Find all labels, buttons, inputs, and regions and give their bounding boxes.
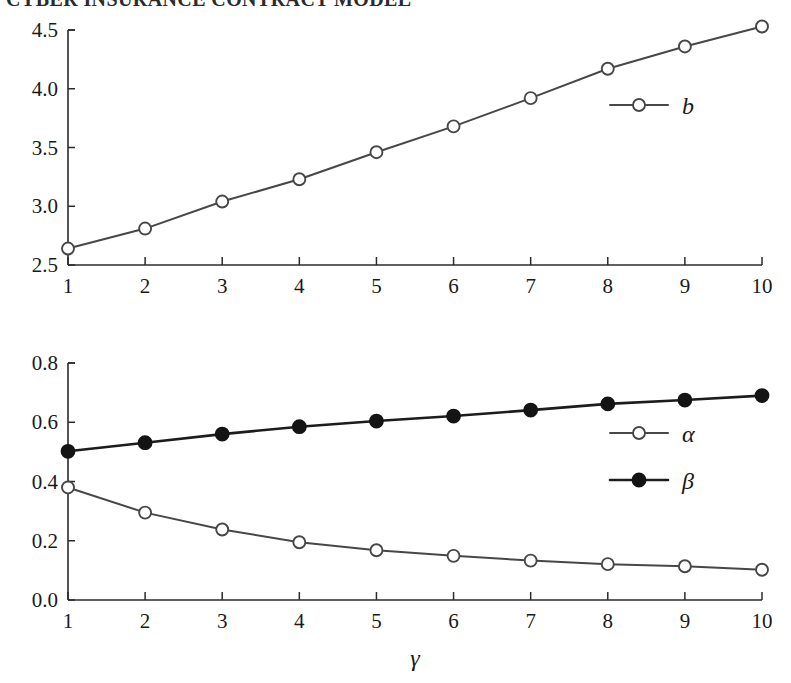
legend-marker-b xyxy=(633,99,645,111)
x-tick-label: 8 xyxy=(603,609,614,633)
y-tick-label: 0.4 xyxy=(32,470,59,494)
data-point-b xyxy=(139,223,151,235)
series-line-β xyxy=(68,396,762,452)
y-tick-label: 2.5 xyxy=(32,253,58,277)
x-tick-label: 1 xyxy=(63,609,74,633)
data-point-b xyxy=(448,120,460,132)
data-point-β xyxy=(755,389,768,402)
x-axis-label: γ xyxy=(410,310,420,320)
data-point-β xyxy=(447,409,460,422)
y-tick-label: 3.0 xyxy=(32,194,58,218)
data-point-β xyxy=(216,428,229,441)
data-point-β xyxy=(293,420,306,433)
data-point-α xyxy=(139,507,151,519)
data-point-β xyxy=(524,404,537,417)
data-point-α xyxy=(216,523,228,535)
data-point-β xyxy=(61,445,74,458)
legend-label-β: β xyxy=(681,468,694,494)
y-tick-label: 3.5 xyxy=(32,136,58,160)
line-chart-b: 2.53.03.54.04.512345678910γb xyxy=(0,10,791,320)
x-tick-label: 7 xyxy=(525,609,536,633)
data-point-α xyxy=(525,555,537,567)
data-point-α xyxy=(756,564,768,576)
x-tick-label: 9 xyxy=(680,274,691,298)
data-point-b xyxy=(679,40,691,52)
data-point-b xyxy=(62,243,74,255)
x-tick-label: 9 xyxy=(680,609,691,633)
data-point-α xyxy=(602,558,614,570)
x-tick-label: 4 xyxy=(294,609,305,633)
data-point-β xyxy=(678,393,691,406)
x-tick-label: 3 xyxy=(217,609,228,633)
x-tick-label: 10 xyxy=(752,609,773,633)
chart-panel-bottom: 0.00.20.40.60.812345678910γαβ xyxy=(0,338,791,683)
x-tick-label: 7 xyxy=(525,274,536,298)
data-point-b xyxy=(602,63,614,75)
data-point-α xyxy=(62,481,74,493)
legend-label-α: α xyxy=(682,421,695,447)
y-tick-label: 4.5 xyxy=(32,18,58,42)
data-point-β xyxy=(601,397,614,410)
y-tick-label: 0.8 xyxy=(32,351,58,375)
x-tick-label: 4 xyxy=(294,274,305,298)
data-point-α xyxy=(679,560,691,572)
y-tick-label: 0.6 xyxy=(32,410,58,434)
running-header: CYBER INSURANCE CONTRACT MODEL xyxy=(0,0,791,9)
legend-marker-β xyxy=(632,473,645,486)
x-tick-label: 2 xyxy=(140,609,151,633)
x-tick-label: 2 xyxy=(140,274,151,298)
data-point-b xyxy=(216,196,228,208)
legend-entry-β: β xyxy=(610,468,694,494)
data-point-β xyxy=(139,436,152,449)
legend-entry-b: b xyxy=(610,93,694,119)
data-point-b xyxy=(293,173,305,185)
series-line-b xyxy=(68,26,762,248)
x-tick-label: 5 xyxy=(371,609,382,633)
data-point-α xyxy=(448,550,460,562)
series-line-α xyxy=(68,487,762,569)
data-point-α xyxy=(293,536,305,548)
y-tick-label: 0.2 xyxy=(32,529,58,553)
x-tick-label: 6 xyxy=(448,609,459,633)
x-tick-label: 6 xyxy=(448,274,459,298)
x-tick-label: 8 xyxy=(603,274,614,298)
x-tick-label: 5 xyxy=(371,274,382,298)
legend-marker-α xyxy=(633,427,645,439)
line-chart-alpha-beta: 0.00.20.40.60.812345678910γαβ xyxy=(0,338,791,683)
y-tick-label: 0.0 xyxy=(32,588,58,612)
x-axis-label: γ xyxy=(410,645,420,671)
x-tick-label: 10 xyxy=(752,274,773,298)
data-point-b xyxy=(756,20,768,32)
data-point-b xyxy=(370,146,382,158)
x-tick-label: 1 xyxy=(63,274,74,298)
data-point-β xyxy=(370,414,383,427)
data-point-α xyxy=(370,544,382,556)
data-point-b xyxy=(525,92,537,104)
running-header-text: CYBER INSURANCE CONTRACT MODEL xyxy=(6,0,412,9)
chart-panel-top: 2.53.03.54.04.512345678910γb xyxy=(0,10,791,320)
legend-entry-α: α xyxy=(610,421,695,447)
y-tick-label: 4.0 xyxy=(32,77,58,101)
x-tick-label: 3 xyxy=(217,274,228,298)
legend-label-b: b xyxy=(682,93,694,119)
